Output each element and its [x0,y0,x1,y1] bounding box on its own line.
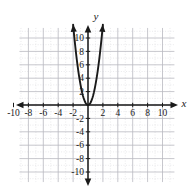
x-axis-label: x [181,97,187,109]
y-tick-label: 8 [79,47,84,57]
x-tick-label: 4 [115,108,120,118]
y-tick-label: -8 [76,154,84,164]
y-tick-label: 10 [75,33,85,43]
y-tick-label: 2 [79,87,84,97]
coordinate-plane: -10-8-6-4-2246810 108642-2-4-6-8-10 x y [0,0,192,194]
x-tick-label: -6 [39,108,47,118]
y-tick-label: -2 [76,114,84,124]
y-tick-label: -10 [71,167,84,177]
x-tick-label: 10 [158,108,168,118]
y-axis-label: y [93,10,99,22]
y-tick-label: 4 [79,73,84,83]
x-tick-label: -4 [54,108,62,118]
x-tick-label: 8 [145,108,150,118]
x-tick-label: 2 [101,108,106,118]
y-tick-label: -4 [76,127,84,137]
x-tick-label: 6 [130,108,135,118]
y-tick-label: -6 [76,140,84,150]
graph-figure: -10-8-6-4-2246810 108642-2-4-6-8-10 x y [0,0,192,194]
y-tick-label: 6 [79,60,84,70]
x-tick-label: -10 [7,108,20,118]
x-tick-label: -8 [24,108,32,118]
